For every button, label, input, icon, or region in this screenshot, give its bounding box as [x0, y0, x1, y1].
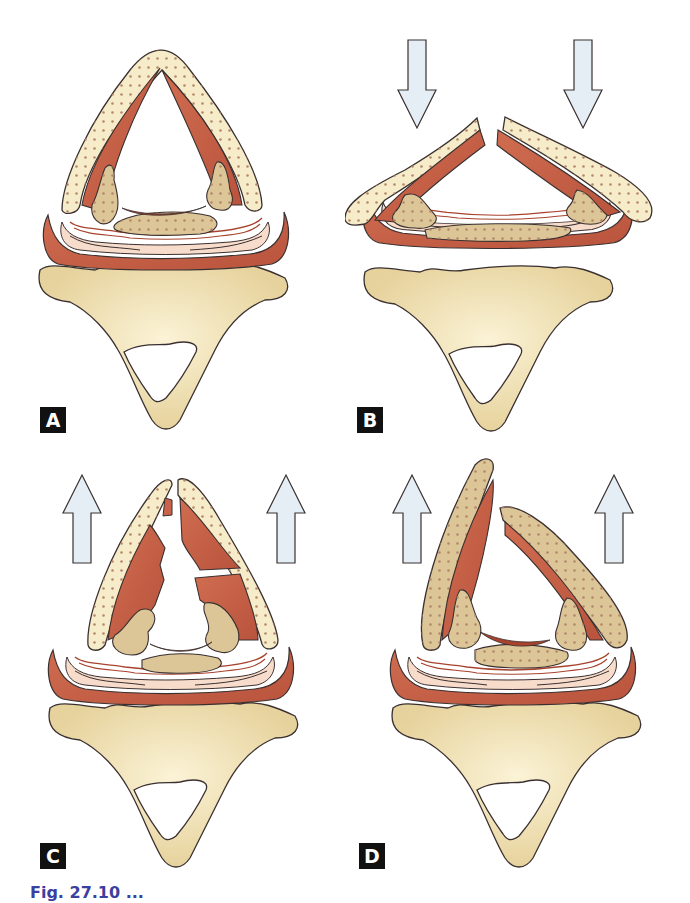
larynx-intact-illustration: [0, 0, 345, 440]
panel-label-d: D: [359, 843, 385, 869]
arrow-up-icon: [595, 475, 633, 563]
arrow-down-icon: [564, 40, 602, 128]
panel-c: C: [0, 440, 345, 880]
panel-d: D: [345, 440, 690, 880]
arrow-up-icon: [63, 475, 101, 563]
panel-a: A: [0, 0, 345, 440]
arrow-down-icon: [398, 40, 436, 128]
panel-label-a: A: [40, 407, 66, 433]
arrow-up-icon: [393, 475, 431, 563]
larynx-displaced-illustration: [345, 440, 690, 880]
panel-label-b: B: [357, 407, 383, 433]
larynx-compressed-illustration: [345, 0, 690, 440]
figure-caption: Fig. 27.10 ...: [30, 883, 670, 903]
larynx-fractured-illustration: [0, 440, 345, 880]
panel-label-c: C: [40, 843, 66, 869]
arrow-up-icon: [267, 475, 305, 563]
panel-b: B: [345, 0, 690, 440]
